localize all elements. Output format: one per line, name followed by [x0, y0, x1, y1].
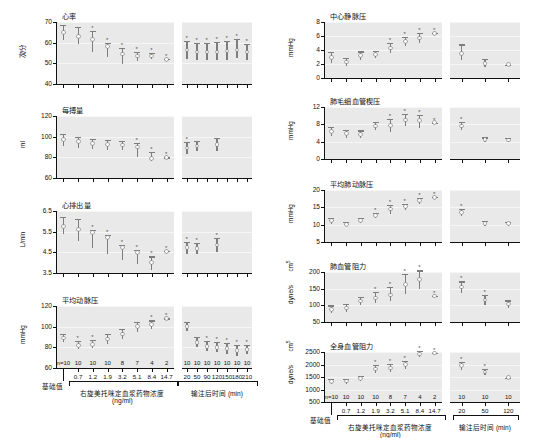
concentration-axis-label-line2: (ng/ml): [317, 431, 464, 438]
x-axis-tick-label: 20: [451, 407, 473, 414]
x-axis-annotations: n=1010101087421010100.71.21.93.25.18.414…: [268, 0, 538, 433]
x-axis-tick-label: 14.7: [156, 373, 178, 380]
x-axis-tick-label: 210: [236, 373, 258, 380]
time-bracket: [178, 381, 258, 386]
concentration-bracket: [69, 381, 178, 386]
x-axis-tick-label: 50: [474, 407, 496, 414]
sample-size-label: 10: [497, 394, 519, 400]
baseline-tick: [331, 405, 332, 415]
sample-size-label: 10: [474, 394, 496, 400]
baseline-tick: [63, 371, 64, 381]
concentration-axis-label-line2: (ng/ml): [49, 397, 196, 404]
sample-size-label: 2: [424, 394, 446, 400]
time-axis-label: 输注后时间 (min): [431, 422, 538, 432]
x-axis-tick-label: 14.7: [424, 407, 446, 414]
x-axis-tick-label: 120: [497, 407, 519, 414]
time-bracket: [453, 415, 520, 420]
x-axis-annotations: n=101010108742101010101010100.71.21.93.2…: [0, 0, 270, 433]
sample-size-label: 10: [236, 360, 258, 366]
concentration-bracket: [337, 415, 446, 420]
sample-size-label: 10: [451, 394, 473, 400]
time-axis-label: 输注后时间 (min): [156, 388, 278, 398]
sample-size-label: 2: [156, 360, 178, 366]
